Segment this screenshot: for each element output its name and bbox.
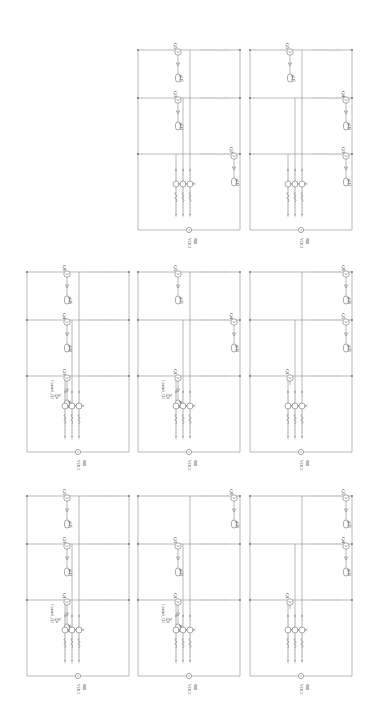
junction-dot — [287, 436, 288, 437]
switch-label: Q5 — [341, 313, 346, 320]
junction-dot — [189, 391, 190, 392]
junction-dot — [249, 49, 251, 51]
voltmeter-2: V — [292, 614, 301, 664]
dc-source: VDC1800 — [186, 449, 198, 470]
junction-dot — [26, 319, 28, 321]
gate-arrow-icon — [345, 509, 348, 512]
junction-dot — [301, 660, 302, 661]
switch-q6: Q6gQ6 — [62, 265, 73, 304]
switch-label: Q4 — [341, 91, 346, 98]
gate-arrow-icon — [66, 557, 69, 560]
junction-dot — [64, 660, 65, 661]
voltmeter-3: V — [76, 390, 85, 440]
junction-dot — [287, 615, 288, 616]
igbt-icon — [64, 319, 70, 325]
control-block: Control_Q1V — [50, 604, 62, 623]
voltmeter-1: V — [173, 168, 182, 218]
switch-q3: Q3gQ3 — [173, 537, 184, 576]
junction-dot — [189, 436, 190, 437]
junction-dot — [137, 375, 139, 377]
control-block: Control_Q1V — [50, 380, 62, 399]
junction-dot — [137, 271, 139, 273]
gate-label: gQ4 — [347, 569, 352, 576]
junction-dot — [351, 49, 353, 51]
igbt-icon — [343, 97, 349, 103]
voltmeter-1: V — [62, 614, 71, 664]
source-value: 800 — [305, 238, 310, 244]
control-label: Control_Q1 — [50, 380, 55, 399]
gate-arrow-icon — [177, 557, 180, 560]
junction-dot — [249, 599, 251, 601]
gate-arrow-icon — [66, 389, 69, 392]
gate-label: gQ6 — [235, 521, 240, 528]
igbt-icon — [343, 319, 349, 325]
junction-dot — [239, 319, 241, 321]
switch-q4: Q4gQ4 — [62, 313, 73, 352]
switch-q5: Q5gQ5 — [341, 489, 352, 528]
switch-q5: Q5gQ5 — [62, 489, 73, 528]
switch-label: Q2 — [229, 147, 234, 154]
igbt-icon — [175, 49, 181, 55]
switch-q2: Q2gQ2 — [229, 147, 240, 186]
switch-label: Q5 — [341, 489, 346, 496]
junction-dot — [128, 319, 130, 321]
gate-label: gQ3 — [68, 569, 73, 576]
gate-label: gQ6 — [68, 297, 73, 304]
igbt-icon — [343, 271, 349, 277]
junction-dot — [239, 599, 241, 601]
igbt-icon — [287, 375, 293, 381]
switch-label: Q4 — [229, 313, 234, 320]
switch-label: Q1 — [173, 369, 178, 376]
junction-dot — [351, 319, 353, 321]
switch-label: Q4 — [341, 537, 346, 544]
gate-arrow-icon — [66, 333, 69, 336]
igbt-icon — [231, 319, 237, 325]
switch-label: Q6 — [229, 489, 234, 496]
voltmeter-3: V — [76, 614, 85, 664]
gate-arrow-icon — [177, 613, 180, 616]
switch-label: Q3 — [173, 537, 178, 544]
junction-dot — [351, 599, 353, 601]
schematic-panel-r1c3: Q5gQ5Q4gQ4Q3gQ3VVVVDC1800 — [247, 42, 355, 248]
junction-dot — [182, 660, 183, 661]
gate-label: gQ3 — [179, 569, 184, 576]
voltmeter-label: V — [303, 405, 308, 408]
voltmeter-2: V — [292, 390, 301, 440]
gate-arrow-icon — [289, 63, 292, 66]
junction-dot — [182, 436, 183, 437]
schematic-svg: Q5gQ5Q3gQ3Q1gQ1Control_Q1VVVVVDC1800 — [24, 488, 132, 694]
switch-q1: Q1 — [285, 593, 293, 609]
switch-label: Q5 — [173, 43, 178, 50]
schematic-svg: Q5gQ5Q4gQ4Q3gQ3VVVVDC1800 — [247, 42, 355, 248]
gate-arrow-icon — [233, 333, 236, 336]
junction-dot — [301, 615, 302, 616]
gate-label: gQ3 — [179, 123, 184, 130]
junction-dot — [182, 615, 183, 616]
switch-q1: Q1 — [285, 369, 293, 385]
junction-dot — [189, 615, 190, 616]
gate-arrow-icon — [177, 111, 180, 114]
gate-label: gQ3 — [347, 179, 352, 186]
switch-q5: Q5gQ5 — [173, 43, 184, 82]
source-name: VDC1 — [187, 460, 192, 470]
switch-label: Q1 — [285, 593, 290, 600]
igbt-icon — [64, 375, 70, 381]
gate-arrow-icon — [233, 167, 236, 170]
gate-label: gQ5 — [68, 521, 73, 528]
switch-q1: Q1gQ1 — [62, 593, 73, 632]
voltmeter-label: V — [80, 405, 85, 408]
junction-dot — [301, 391, 302, 392]
gate-arrow-icon — [345, 167, 348, 170]
source-name: VDC1 — [76, 684, 81, 694]
switch-q3: Q3gQ1 — [62, 369, 73, 408]
source-name: VDC1 — [76, 460, 81, 470]
junction-dot — [175, 169, 176, 170]
gate-label: gQ6 — [347, 297, 352, 304]
gate-arrow-icon — [345, 557, 348, 560]
switch-q6: Q6gQ6 — [341, 265, 352, 304]
switch-q5: Q5gQ5 — [341, 313, 352, 352]
switch-q6: Q6gQ6 — [229, 489, 240, 528]
igbt-icon — [343, 543, 349, 549]
junction-dot — [26, 543, 28, 545]
gate-arrow-icon — [66, 285, 69, 288]
